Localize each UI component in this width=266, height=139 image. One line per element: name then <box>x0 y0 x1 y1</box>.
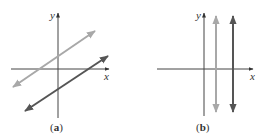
parallel-lines-figure: y x (a) y x (b) <box>0 0 266 139</box>
x-axis-label: x <box>103 70 109 82</box>
panel-b: y x (b) <box>157 9 255 134</box>
light-sloped-line <box>13 31 95 87</box>
y-axis-label: y <box>195 9 201 21</box>
dark-sloped-line <box>25 56 108 111</box>
panel-b-caption: (b) <box>196 121 210 134</box>
panel-a: y x (a) <box>11 9 109 134</box>
y-axis-label: y <box>49 9 55 21</box>
x-axis-label: x <box>249 70 255 82</box>
panel-a-caption: (a) <box>50 121 63 134</box>
